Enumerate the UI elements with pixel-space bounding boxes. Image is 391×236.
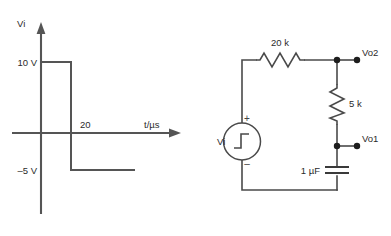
x-axis-arrow-icon — [169, 129, 181, 138]
resistor-20k-zigzag — [256, 53, 305, 67]
y-tick-label-10v: 10 V — [17, 57, 37, 68]
source-label: Vi — [217, 136, 225, 147]
capacitor-1uf-label: 1 µF — [301, 165, 320, 176]
circuit-diagram: 20 k 5 k 1 µF + – Vi — [217, 37, 378, 190]
resistor-20k: 20 k — [256, 37, 305, 67]
x-axis-label: t/µs — [144, 119, 160, 130]
y-tick-label-neg5v: –5 V — [17, 165, 37, 176]
terminal-dot-vo2 — [354, 57, 360, 63]
waveform-trace — [41, 62, 135, 170]
node-vo2-label: Vo2 — [362, 47, 378, 58]
y-axis-arrow-icon — [37, 22, 46, 34]
capacitor-1uf: 1 µF — [301, 165, 349, 176]
source-minus-sign: – — [244, 158, 250, 169]
waveform-plot: Vi 10 V –5 V 20 t/µs — [12, 18, 181, 214]
y-axis-label: Vi — [17, 18, 25, 29]
figure-root: Vi 10 V –5 V 20 t/µs 20 k — [0, 0, 391, 236]
voltage-source-vi: + – Vi — [217, 113, 261, 169]
wire-source-return — [242, 160, 337, 190]
node-vo1-label: Vo1 — [362, 133, 378, 144]
terminal-dot-vo1 — [354, 143, 360, 149]
node-vo2: Vo2 — [334, 47, 379, 63]
resistor-5k-label: 5 k — [349, 98, 362, 109]
figure-canvas: Vi 10 V –5 V 20 t/µs 20 k — [0, 0, 391, 236]
node-vo1: Vo1 — [334, 133, 379, 149]
source-circle — [224, 123, 261, 160]
x-tick-label-20: 20 — [80, 119, 91, 130]
source-plus-sign: + — [244, 113, 250, 124]
junction-dot-vo2 — [334, 57, 340, 63]
resistor-5k-zigzag — [330, 84, 344, 125]
resistor-5k: 5 k — [330, 84, 362, 125]
junction-dot-vo1 — [334, 143, 340, 149]
resistor-20k-label: 20 k — [271, 37, 289, 48]
